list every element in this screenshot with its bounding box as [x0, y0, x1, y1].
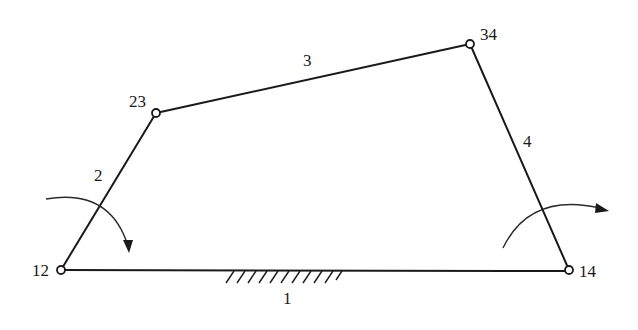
joint-label-14: 14 — [579, 262, 597, 281]
joint-34 — [466, 40, 474, 48]
input-rotation-arrow-icon — [46, 197, 133, 253]
link-label-2: 2 — [94, 166, 103, 185]
four-bar-linkage-diagram: 12 23 34 14 1 2 3 4 — [0, 0, 638, 330]
link-label-4: 4 — [523, 132, 532, 151]
link-4-rocker — [470, 44, 569, 270]
link-label-3: 3 — [303, 51, 312, 70]
link-3-coupler — [156, 44, 470, 113]
joint-23 — [152, 109, 160, 117]
joint-12 — [57, 266, 65, 274]
joint-label-12: 12 — [32, 261, 49, 280]
link-1-ground — [61, 270, 569, 271]
link-2-crank — [61, 113, 156, 270]
ground-hatch-icon — [226, 271, 342, 283]
joint-label-34: 34 — [480, 25, 498, 44]
link-label-1: 1 — [283, 289, 292, 308]
joint-14 — [565, 266, 573, 274]
joint-label-23: 23 — [129, 92, 146, 111]
